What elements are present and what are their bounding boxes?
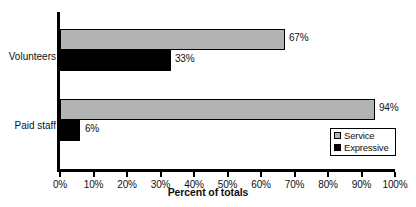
- chart-legend: Service Expressive: [330, 128, 396, 156]
- x-tick-90: [361, 172, 363, 177]
- legend-label-service: Service: [344, 131, 374, 141]
- bar-volunteers-service: [60, 29, 285, 50]
- x-axis-title: Percent of totals: [0, 186, 416, 198]
- bar-value-paid-staff-service: 94%: [379, 102, 398, 113]
- x-tick-70: [294, 172, 296, 177]
- legend-label-expressive: Expressive: [344, 143, 388, 153]
- bar-value-volunteers-service: 67%: [289, 32, 308, 43]
- x-tick-40: [193, 172, 195, 177]
- bar-paid-staff-expressive: [60, 120, 80, 141]
- bar-value-volunteers-expressive: 33%: [175, 53, 194, 64]
- legend-item-service: Service: [334, 131, 392, 141]
- bar-value-paid-staff-expressive: 6%: [85, 123, 99, 134]
- x-tick-0: [59, 172, 61, 177]
- legend-swatch-service-icon: [334, 132, 341, 139]
- legend-item-expressive: Expressive: [334, 143, 392, 153]
- bar-chart: Volunteers Paid staff 0% 10% 20% 30% 40%…: [0, 0, 416, 207]
- category-label-paid-staff: Paid staff: [14, 120, 56, 131]
- category-axis-labels: Volunteers Paid staff: [0, 12, 56, 169]
- x-tick-50: [227, 172, 229, 177]
- x-tick-20: [126, 172, 128, 177]
- x-tick-100: [394, 172, 396, 177]
- x-tick-30: [160, 172, 162, 177]
- x-tick-10: [93, 172, 95, 177]
- bar-paid-staff-service: [60, 99, 375, 120]
- category-label-volunteers: Volunteers: [9, 51, 56, 62]
- bar-volunteers-expressive: [60, 50, 171, 71]
- legend-swatch-expressive-icon: [334, 144, 341, 151]
- x-tick-80: [327, 172, 329, 177]
- x-tick-60: [260, 172, 262, 177]
